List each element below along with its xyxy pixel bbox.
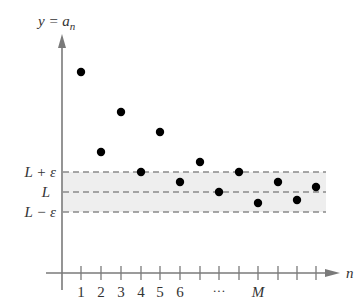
sequence-limit-diagram: 1 2 3 4 5 6 ··· M n y = an L + ε L L − ε	[0, 0, 359, 301]
tick-label-1: 1	[77, 284, 85, 300]
tick-label-6: 6	[176, 284, 184, 300]
point-a3	[117, 108, 125, 116]
point-a1	[77, 68, 85, 76]
point-a4	[137, 168, 145, 176]
tick-label-4: 4	[137, 284, 145, 300]
point-a8	[215, 188, 223, 196]
x-axis-arrow-icon	[325, 269, 340, 277]
y-axis-label: y = an	[36, 13, 76, 32]
tick-label-2: 2	[97, 284, 105, 300]
tick-label-3: 3	[117, 284, 125, 300]
tick-label-5: 5	[156, 284, 164, 300]
y-axis-label-subscript: n	[70, 20, 76, 32]
point-a12	[293, 196, 301, 204]
label-lower-bound: L − ε	[23, 204, 56, 220]
point-a6	[176, 178, 184, 186]
x-axis-tick-labels: 1 2 3 4 5 6 ··· M	[77, 283, 266, 300]
y-axis-arrow-icon	[58, 34, 66, 48]
point-a13	[312, 183, 320, 191]
point-a5	[156, 128, 164, 136]
point-a2	[97, 148, 105, 156]
point-a10	[254, 199, 262, 207]
point-a9	[235, 168, 243, 176]
label-limit: L	[41, 184, 50, 200]
x-axis-label: n	[346, 265, 354, 281]
point-a11	[274, 178, 282, 186]
point-a7	[196, 158, 204, 166]
label-upper-bound: L + ε	[23, 164, 56, 180]
tick-label-ellipsis: ···	[213, 283, 226, 298]
tick-label-M: M	[251, 284, 266, 300]
